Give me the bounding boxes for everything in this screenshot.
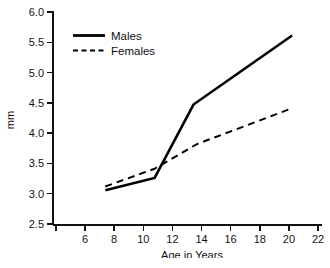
line-chart: 2.5 3.0 3.5 4.0 4.5 5.0 5.5 6.0 mm 6 — [0, 0, 330, 268]
y-axis-title: mm — [4, 111, 16, 129]
series-line-females — [105, 108, 292, 186]
legend-label-males: Males — [111, 30, 142, 42]
y-tick-label: 4.5 — [29, 97, 44, 109]
chart-figure: 2.5 3.0 3.5 4.0 4.5 5.0 5.5 6.0 mm 6 — [0, 0, 330, 268]
x-tick-label: 18 — [254, 233, 266, 245]
x-tick-label: 20 — [283, 233, 295, 245]
y-tick-label: 3.5 — [29, 157, 44, 169]
y-axis-ticks — [47, 12, 53, 224]
series-line-males — [105, 35, 292, 190]
y-tick-label: 5.5 — [29, 36, 44, 48]
figure-bottom-margin — [0, 258, 330, 268]
x-axis-ticks — [56, 225, 318, 231]
x-tick-label: 14 — [195, 233, 207, 245]
y-tick-label: 6.0 — [29, 6, 44, 18]
y-axis-tick-labels: 2.5 3.0 3.5 4.0 4.5 5.0 5.5 6.0 — [29, 6, 44, 230]
y-tick-label: 5.0 — [29, 67, 44, 79]
y-tick-label: 3.0 — [29, 188, 44, 200]
x-tick-label: 10 — [137, 233, 149, 245]
x-tick-label: 6 — [82, 233, 88, 245]
y-tick-label: 4.0 — [29, 127, 44, 139]
x-tick-label: 22 — [312, 233, 324, 245]
x-tick-label: 8 — [111, 233, 117, 245]
legend-label-females: Females — [111, 45, 155, 57]
x-axis-tick-labels: 6 8 10 12 14 16 18 20 22 — [82, 233, 324, 245]
x-tick-label: 12 — [166, 233, 178, 245]
x-tick-label: 16 — [224, 233, 236, 245]
y-tick-label: 2.5 — [29, 218, 44, 230]
chart-legend: Males Females — [73, 30, 155, 57]
